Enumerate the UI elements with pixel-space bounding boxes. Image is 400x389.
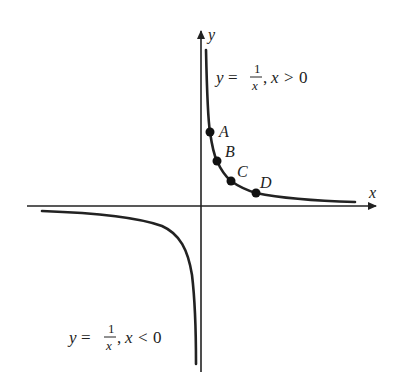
eq-numerator: 1 (108, 321, 115, 336)
eq-cond-op: < (138, 328, 148, 347)
hyperbola-diagram: y x A B C D y = 1 x , x > 0 y = 1 x , x … (0, 0, 400, 389)
point-a (206, 128, 215, 137)
eq-numerator: 1 (254, 61, 261, 76)
x-axis-label: x (368, 184, 376, 201)
equation-positive-branch: y = 1 x , x > 0 (214, 61, 308, 93)
point-a-label: A (218, 123, 229, 140)
point-b-label: B (225, 143, 235, 160)
eq-denominator: x (251, 78, 258, 93)
eq-cond-op: > (284, 68, 294, 87)
eq-cond-var: x (124, 328, 133, 347)
eq-cond-var: x (270, 68, 279, 87)
eq-cond-val: 0 (153, 328, 162, 347)
point-c (227, 177, 236, 186)
equation-negative-branch: y = 1 x , x < 0 (67, 321, 162, 353)
eq-equals: = (81, 328, 91, 347)
point-d-label: D (259, 174, 272, 191)
eq-denominator: x (105, 338, 112, 353)
eq-equals: = (228, 68, 238, 87)
y-axis-label: y (206, 26, 216, 44)
eq-lhs: y (67, 328, 77, 347)
eq-comma: , (117, 328, 121, 347)
eq-comma: , (263, 68, 267, 87)
point-c-label: C (237, 163, 248, 180)
eq-cond-val: 0 (299, 68, 308, 87)
eq-lhs: y (214, 68, 224, 87)
point-b (213, 157, 222, 166)
